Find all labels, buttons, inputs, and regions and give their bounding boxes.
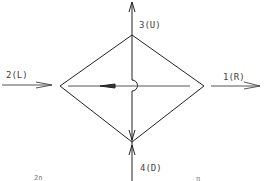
arrow-left-icon [100,84,115,88]
port-label-down: 4(D) [140,163,162,173]
port-label-right: 1(R) [223,72,245,82]
port-label-up: 3(U) [139,20,161,30]
port-label-left: 2(L) [6,70,28,80]
footer-left-text: 2n [34,174,42,181]
junction-diagram: 3(U) 2(L) 1(R) 4(D) 2n π [0,0,265,181]
footer-right-text: π [196,175,201,181]
